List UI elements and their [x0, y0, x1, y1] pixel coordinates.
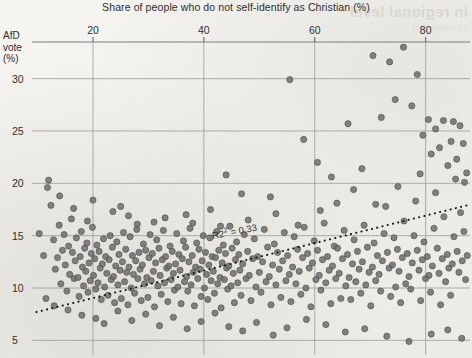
- data-point: [344, 251, 350, 257]
- data-point: [223, 172, 229, 178]
- data-point: [414, 71, 420, 77]
- data-point: [338, 295, 344, 301]
- data-point: [460, 140, 466, 146]
- data-point: [323, 280, 329, 286]
- data-point: [136, 249, 142, 255]
- data-point: [384, 249, 390, 255]
- data-point: [117, 267, 123, 273]
- data-point: [296, 268, 302, 274]
- data-point: [169, 248, 175, 254]
- data-point: [346, 274, 352, 280]
- data-point: [258, 289, 264, 295]
- data-point: [157, 272, 163, 278]
- data-point: [210, 268, 216, 274]
- data-point: [246, 272, 252, 278]
- data-point: [409, 260, 415, 266]
- y-tick-label: 20: [12, 177, 24, 189]
- data-point: [56, 222, 62, 228]
- data-point: [93, 315, 99, 321]
- data-point: [126, 264, 132, 270]
- data-point: [293, 281, 299, 287]
- data-point: [270, 332, 276, 338]
- data-point: [89, 224, 95, 230]
- data-point: [464, 253, 470, 259]
- data-point: [353, 279, 359, 285]
- data-point: [458, 210, 464, 216]
- data-point: [139, 262, 145, 268]
- data-point: [84, 218, 90, 224]
- data-point: [428, 151, 434, 157]
- data-point: [118, 203, 124, 209]
- data-point: [236, 251, 242, 257]
- data-point: [368, 303, 374, 309]
- data-point: [351, 187, 357, 193]
- data-point: [298, 291, 304, 297]
- data-point: [143, 247, 149, 253]
- data-point: [79, 312, 85, 318]
- plot-canvas: [0, 0, 472, 358]
- data-point: [443, 279, 449, 285]
- data-point: [143, 311, 149, 317]
- data-point: [406, 273, 412, 279]
- data-point: [260, 259, 266, 265]
- data-point: [155, 283, 161, 289]
- data-point: [416, 267, 422, 273]
- data-point: [99, 261, 105, 267]
- data-point: [239, 191, 245, 197]
- data-point: [334, 200, 340, 206]
- data-point: [52, 266, 58, 272]
- data-point: [323, 322, 329, 328]
- data-point: [179, 256, 185, 262]
- data-point: [266, 273, 272, 279]
- data-point: [76, 293, 82, 299]
- data-point: [424, 254, 430, 260]
- y-axis-title: AfD vote (%): [3, 30, 22, 65]
- data-point: [408, 286, 414, 292]
- data-point: [75, 274, 81, 280]
- data-point: [438, 302, 444, 308]
- data-point: [334, 245, 340, 251]
- data-point: [281, 229, 287, 235]
- data-point: [440, 117, 446, 123]
- data-point: [201, 285, 207, 291]
- data-point: [316, 272, 322, 278]
- data-point: [396, 268, 402, 274]
- data-point: [153, 260, 159, 266]
- data-point: [314, 159, 320, 165]
- data-point: [403, 281, 409, 287]
- data-point: [348, 296, 354, 302]
- data-point: [273, 211, 279, 217]
- data-point: [207, 206, 213, 212]
- data-point: [393, 284, 399, 290]
- y-tick-label: 30: [12, 73, 24, 85]
- data-point: [190, 220, 196, 226]
- data-point: [100, 236, 106, 242]
- data-point: [378, 114, 384, 120]
- data-point: [72, 258, 78, 264]
- data-point: [378, 288, 384, 294]
- data-point: [373, 201, 379, 207]
- data-point: [110, 209, 116, 215]
- data-point: [220, 242, 226, 248]
- data-point: [318, 287, 324, 293]
- data-point: [218, 305, 224, 311]
- data-point: [300, 255, 306, 261]
- data-point: [356, 266, 362, 272]
- data-point: [388, 293, 394, 299]
- data-point: [234, 239, 240, 245]
- data-point: [110, 273, 116, 279]
- data-point: [362, 326, 368, 332]
- data-point: [170, 270, 176, 276]
- data-point: [429, 263, 435, 269]
- data-point: [175, 284, 181, 290]
- data-point: [406, 338, 412, 344]
- data-point: [221, 277, 227, 283]
- data-point: [358, 290, 364, 296]
- data-point: [231, 300, 237, 306]
- data-point: [413, 198, 419, 204]
- data-point: [267, 194, 273, 200]
- data-point: [431, 225, 437, 231]
- data-point: [230, 270, 236, 276]
- data-point: [253, 319, 259, 325]
- data-point: [183, 244, 189, 250]
